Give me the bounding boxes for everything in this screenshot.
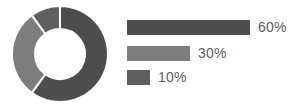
legend-swatch-bar [127, 70, 150, 85]
legend-row[interactable]: 30% [127, 45, 227, 61]
legend-label: 10% [158, 70, 187, 85]
legend-row[interactable]: 60% [127, 19, 287, 35]
donut-chart-svg [8, 4, 112, 105]
legend-label: 60% [258, 20, 287, 35]
legend-swatch-bar [127, 46, 190, 61]
legend-label: 30% [198, 46, 227, 61]
donut-chart [8, 4, 112, 105]
legend-row[interactable]: 10% [127, 69, 187, 85]
legend-swatch-bar [127, 20, 250, 35]
chart-legend: 60% 30% 10% [127, 19, 308, 91]
chart-figure: 60% 30% 10% [0, 0, 308, 109]
